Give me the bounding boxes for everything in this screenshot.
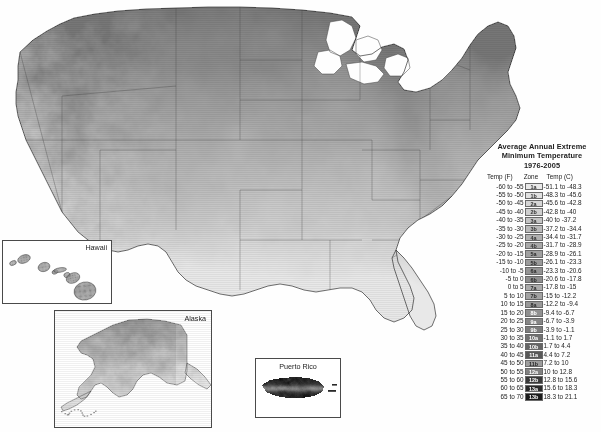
legend-row: 45 to 5011b7.2 to 10	[486, 359, 599, 367]
legend-temp-c: -1.1 to 1.7	[544, 334, 599, 342]
legend-row: 0 to 57a-17.8 to -15	[486, 283, 599, 291]
legend-zone-swatch: 3b	[525, 225, 543, 232]
zone-legend-table: Temp (F) Zone Temp (C) -60 to -551a-51.1…	[486, 173, 599, 401]
legend-zone-cell: 9a	[524, 317, 544, 325]
legend-temp-f: -15 to -10	[486, 258, 524, 266]
legend-row: -20 to -155a-28.9 to -26.1	[486, 250, 599, 258]
legend-row: -60 to -551a-51.1 to -48.3	[486, 183, 599, 191]
legend-header-temp-c: Temp (C)	[544, 173, 599, 183]
legend-zone-cell: 13b	[524, 393, 544, 401]
legend-temp-c: -45.6 to -42.8	[544, 199, 599, 207]
legend-row: -55 to -501b-48.3 to -45.6	[486, 191, 599, 199]
legend-zone-cell: 8b	[524, 309, 544, 317]
legend-temp-f: 55 to 60	[486, 376, 524, 384]
legend-zone-cell: 4b	[524, 241, 544, 249]
map-title-line-3: 1976-2005	[486, 161, 598, 170]
legend-temp-f: 10 to 15	[486, 300, 524, 308]
legend-row: -40 to -353a-40 to -37.2	[486, 216, 599, 224]
legend-temp-f: 60 to 65	[486, 384, 524, 392]
legend-zone-swatch: 9b	[525, 326, 543, 333]
legend-temp-c: 18.3 to 21.1	[544, 393, 599, 401]
map-title-line-1: Average Annual Extreme	[486, 142, 598, 151]
legend-temp-c: -31.7 to -28.9	[544, 241, 599, 249]
legend-temp-c: -40 to -37.2	[544, 216, 599, 224]
legend-header-temp-f: Temp (F)	[486, 173, 524, 183]
legend-temp-c: -23.3 to -20.6	[544, 267, 599, 275]
legend-zone-cell: 7a	[524, 283, 544, 291]
legend-zone-cell: 10b	[524, 342, 544, 350]
legend-zone-swatch: 6b	[525, 276, 543, 283]
legend-temp-c: -15 to -12.2	[544, 292, 599, 300]
legend-zone-cell: 13a	[524, 384, 544, 392]
legend-temp-f: -60 to -55	[486, 183, 524, 191]
map-figure: Average Annual Extreme Minimum Temperatu…	[0, 0, 601, 432]
legend-temp-c: 1.7 to 4.4	[544, 342, 599, 350]
legend-zone-swatch: 1a	[525, 183, 543, 190]
legend-temp-c: 7.2 to 10	[544, 359, 599, 367]
legend-zone-swatch: 5b	[525, 259, 543, 266]
legend-temp-c: 12.8 to 15.6	[544, 376, 599, 384]
legend-zone-swatch: 6a	[525, 267, 543, 274]
legend-zone-swatch: 9a	[525, 318, 543, 325]
legend-zone-swatch: 11b	[525, 360, 543, 367]
legend-zone-swatch: 8b	[525, 309, 543, 316]
inset-puerto-rico: Puerto Rico	[255, 358, 341, 418]
inset-alaska: Alaska	[54, 310, 212, 428]
map-title-line-2: Minimum Temperature	[486, 151, 598, 160]
legend-zone-swatch: 12b	[525, 376, 543, 383]
legend-temp-c: -37.2 to -34.4	[544, 225, 599, 233]
legend-zone-swatch: 8a	[525, 301, 543, 308]
legend-row: 35 to 4010b1.7 to 4.4	[486, 342, 599, 350]
legend-temp-c: -6.7 to -3.9	[544, 317, 599, 325]
inset-label-alaska: Alaska	[184, 314, 206, 323]
legend-temp-f: 20 to 25	[486, 317, 524, 325]
legend-zone-swatch: 5a	[525, 250, 543, 257]
legend-zone-swatch: 1b	[525, 192, 543, 199]
legend-temp-f: -20 to -15	[486, 250, 524, 258]
legend-zone-cell: 11a	[524, 351, 544, 359]
legend-temp-f: -35 to -30	[486, 225, 524, 233]
legend-temp-c: -26.1 to -23.3	[544, 258, 599, 266]
zone-legend-body: -60 to -551a-51.1 to -48.3-55 to -501b-4…	[486, 183, 599, 402]
legend-zone-cell: 3a	[524, 216, 544, 224]
legend-temp-c: -17.8 to -15	[544, 283, 599, 291]
legend-row: 25 to 309b-3.9 to -1.1	[486, 326, 599, 334]
legend-temp-f: 5 to 10	[486, 292, 524, 300]
legend-row: 10 to 158a-12.2 to -9.4	[486, 300, 599, 308]
legend-temp-f: 45 to 50	[486, 359, 524, 367]
legend-temp-f: 50 to 55	[486, 368, 524, 376]
legend-row: -25 to -204b-31.7 to -28.9	[486, 241, 599, 249]
legend-temp-c: 10 to 12.8	[544, 368, 599, 376]
legend-temp-f: 40 to 45	[486, 351, 524, 359]
legend-zone-cell: 5a	[524, 250, 544, 258]
legend-zone-cell: 12b	[524, 376, 544, 384]
legend-zone-cell: 8a	[524, 300, 544, 308]
legend-zone-swatch: 10a	[525, 334, 543, 341]
legend-zone-swatch: 4a	[525, 234, 543, 241]
legend-zone-swatch: 7b	[525, 292, 543, 299]
legend-temp-f: -45 to -40	[486, 208, 524, 216]
legend-row: 65 to 7013b18.3 to 21.1	[486, 393, 599, 401]
legend-temp-f: 25 to 30	[486, 326, 524, 334]
legend-zone-cell: 9b	[524, 326, 544, 334]
legend-row: 60 to 6513a15.6 to 18.3	[486, 384, 599, 392]
alaska-map-canvas	[55, 311, 212, 428]
inset-label-hawaii: Hawaii	[85, 243, 107, 252]
legend-temp-c: -12.2 to -9.4	[544, 300, 599, 308]
legend-temp-f: -10 to -5	[486, 267, 524, 275]
legend-row: 50 to 5512a10 to 12.8	[486, 368, 599, 376]
legend-row: -45 to -402b-42.8 to -40	[486, 208, 599, 216]
legend-temp-f: 30 to 35	[486, 334, 524, 342]
inset-hawaii: Hawaii	[2, 240, 112, 304]
legend-zone-swatch: 3a	[525, 217, 543, 224]
legend-zone-cell: 1b	[524, 191, 544, 199]
legend-temp-f: 65 to 70	[486, 393, 524, 401]
legend-zone-swatch: 13a	[525, 385, 543, 392]
legend-header-zone: Zone	[524, 173, 544, 183]
legend-zone-cell: 5b	[524, 258, 544, 266]
legend-temp-f: -50 to -45	[486, 199, 524, 207]
legend-zone-cell: 3b	[524, 225, 544, 233]
legend-zone-swatch: 2a	[525, 200, 543, 207]
legend-temp-c: -28.9 to -26.1	[544, 250, 599, 258]
legend-zone-cell: 10a	[524, 334, 544, 342]
